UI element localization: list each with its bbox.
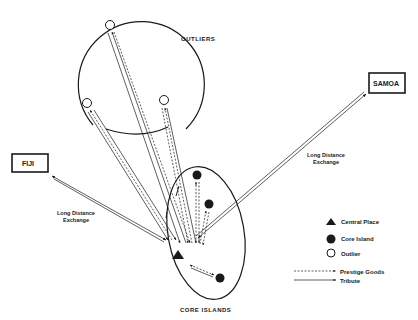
legend-central-place: Central Place (341, 219, 380, 225)
core-island-node-2 (205, 200, 214, 209)
legend-core-island: Core Island (341, 236, 374, 242)
legend-filled-circle-icon (327, 235, 336, 244)
outliers-region-bottom (106, 127, 168, 134)
exchange-network-diagram: OUTLIERS CORE ISLANDS (0, 0, 418, 320)
samoa-label: SAMOA (373, 80, 399, 87)
core-island-node-3 (216, 274, 225, 283)
legend-prestige-goods: Prestige Goods (340, 269, 385, 275)
legend-outlier: Outlier (341, 251, 361, 257)
outlier-node-top (106, 21, 115, 30)
outlier-node-left (83, 99, 92, 108)
core-islands-label: CORE ISLANDS (180, 307, 231, 313)
core-island-node-1 (193, 171, 202, 180)
legend-tribute: Tribute (340, 278, 361, 284)
fiji-exchange-label-2: Exchange (63, 217, 89, 223)
outlier-node-right (160, 96, 169, 105)
flow-core-island-2 (200, 211, 209, 245)
legend: Central Place Core Island Outlier Presti… (294, 218, 385, 284)
fiji-label: FIJI (22, 160, 34, 167)
samoa-exchange-arrow (196, 92, 366, 238)
central-place-node (172, 250, 184, 259)
fiji-exchange-label-1: Long Distance (57, 210, 95, 216)
legend-triangle-icon (326, 218, 336, 225)
legend-open-circle-icon (327, 249, 335, 257)
samoa-exchange-label-1: Long Distance (307, 152, 345, 158)
samoa-exchange-label-2: Exchange (313, 159, 339, 165)
flow-core-island-3 (190, 265, 214, 277)
outliers-label: OUTLIERS (181, 36, 215, 42)
flow-outlier-top (108, 32, 190, 243)
